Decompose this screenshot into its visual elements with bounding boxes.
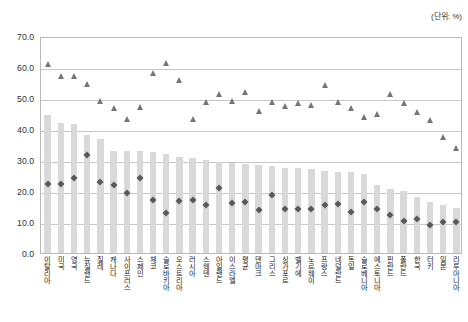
x-tick-label: 체코	[148, 256, 156, 270]
x-tick-label: 사이프러스	[122, 256, 130, 291]
triangle-marker	[269, 99, 275, 105]
triangle-marker	[71, 73, 77, 79]
triangle-marker	[348, 105, 354, 111]
triangle-marker	[45, 61, 51, 67]
x-tick-label: 독일	[346, 256, 354, 270]
x-tick-label: 미국	[56, 256, 64, 270]
x-tick-label: 영국	[69, 256, 77, 270]
triangle-marker	[111, 105, 117, 111]
triangle-marker	[440, 134, 446, 140]
x-tick-label: 칠레	[96, 256, 104, 270]
triangle-marker	[401, 100, 407, 106]
x-tick-label: 뉴질랜드	[82, 256, 90, 284]
y-tick-label: 30.0	[0, 156, 34, 166]
x-tick-label: 이스라엘	[227, 256, 235, 284]
unit-annotation: (단위: %)	[431, 10, 462, 21]
y-tick-label: 50.0	[0, 94, 34, 104]
x-tick-label: 아일랜드	[214, 256, 222, 284]
triangle-marker	[256, 108, 262, 114]
y-tick-label: 20.0	[0, 187, 34, 197]
triangle-marker	[427, 117, 433, 123]
triangle-marker	[308, 102, 314, 108]
triangle-marker	[361, 114, 367, 120]
x-tick-label: 리투아니아	[452, 256, 460, 291]
triangle-marker	[242, 89, 248, 95]
triangle-marker	[124, 116, 130, 122]
x-tick-label: 노르웨이	[307, 256, 315, 284]
triangle-marker	[97, 98, 103, 104]
x-tick-label: 평균	[241, 256, 249, 270]
x-tick-label: 슬로바키아	[161, 256, 169, 291]
y-tick-label: 40.0	[0, 125, 34, 135]
triangle-marker	[335, 99, 341, 105]
x-tick-label: 슬로베니아	[359, 256, 367, 291]
x-tick-label: 러시아	[188, 256, 196, 277]
y-tick-label: 70.0	[0, 32, 34, 42]
x-tick-label: 스웨덴	[201, 256, 209, 277]
x-tick-label: 폴란드	[399, 256, 407, 277]
x-tick-label: 일본	[438, 256, 446, 270]
x-tick-label: 벨기에	[293, 256, 301, 277]
x-tick-label: 그리스	[267, 256, 275, 277]
triangle-series	[41, 38, 461, 253]
x-tick-label: 에스토니아	[372, 256, 380, 291]
y-tick-label: 0.0	[0, 249, 34, 259]
triangle-marker	[453, 145, 459, 151]
triangle-marker	[374, 111, 380, 117]
x-tick-label: 네덜란드	[333, 256, 341, 284]
x-tick-label: 프랑스	[320, 256, 328, 277]
triangle-marker	[176, 77, 182, 83]
triangle-marker	[137, 104, 143, 110]
plot-area	[40, 37, 462, 254]
triangle-marker	[414, 109, 420, 115]
x-axis-category-labels: 이탈리아미국영국뉴질랜드칠레캐나다사이프러스스페인체코슬로바키아오스트리아러시아…	[40, 256, 462, 322]
triangle-marker	[387, 91, 393, 97]
y-tick-label: 10.0	[0, 218, 34, 228]
triangle-marker	[295, 100, 301, 106]
x-tick-label: 한국	[412, 256, 420, 270]
x-tick-label: 스페인	[135, 256, 143, 277]
x-tick-label: 이탈리아	[43, 256, 51, 284]
triangle-marker	[229, 98, 235, 104]
y-tick-label: 60.0	[0, 63, 34, 73]
x-tick-label: 캐나다	[109, 256, 117, 277]
x-tick-label: 덴마크	[254, 256, 262, 277]
triangle-marker	[203, 99, 209, 105]
triangle-marker	[163, 60, 169, 66]
y-axis-tick-labels: 0.010.020.030.040.050.060.070.0	[0, 0, 36, 322]
x-tick-label: 터키	[425, 256, 433, 270]
triangle-marker	[190, 116, 196, 122]
triangle-marker	[150, 70, 156, 76]
x-tick-label: 오스트리아	[175, 256, 183, 291]
chart-root: (단위: %) 0.010.020.030.040.050.060.070.0 …	[0, 0, 468, 322]
x-tick-label: 싱가포르	[280, 256, 288, 284]
triangle-marker	[216, 91, 222, 97]
x-tick-label: 핀란드	[386, 256, 394, 277]
triangle-marker	[58, 73, 64, 79]
triangle-marker	[84, 81, 90, 87]
triangle-marker	[282, 103, 288, 109]
triangle-marker	[322, 82, 328, 88]
